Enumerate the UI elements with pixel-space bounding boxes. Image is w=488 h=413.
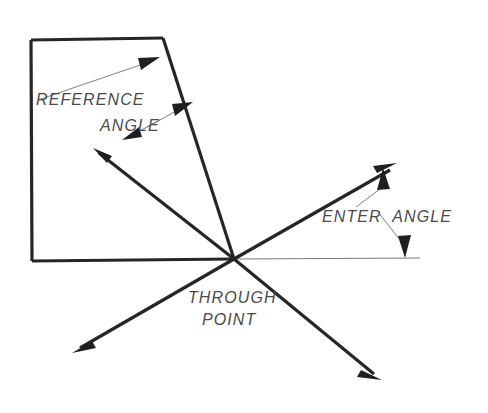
reference-angle-label-line2: ANGLE <box>99 117 160 134</box>
angle-diagram-canvas: REFERENCE ANGLE ENTER ANGLE THROUGH POIN… <box>0 0 488 413</box>
polygon-bottom-edge <box>32 259 234 261</box>
through-point-label-line2: POINT <box>202 311 257 328</box>
reference-angle-label-line1: REFERENCE <box>36 91 145 108</box>
enter-angle-label: ENTER ANGLE <box>322 208 452 225</box>
through-point-label-line1: THROUGH <box>188 289 277 306</box>
diagram-root: REFERENCE ANGLE ENTER ANGLE THROUGH POIN… <box>0 0 488 413</box>
polygon-left-edge <box>31 40 32 261</box>
diagram-background <box>0 0 488 413</box>
polygon-top-edge <box>31 38 163 40</box>
